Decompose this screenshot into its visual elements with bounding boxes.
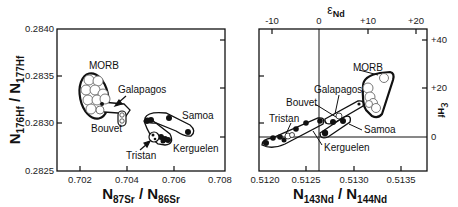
left-xtick-0: 0.702 [68, 174, 92, 185]
epsilon-nd-tick-0: -10 [265, 15, 279, 26]
left-y-axis-title: N176Hf / N177Hf [6, 55, 26, 144]
right-left-ticks [259, 76, 264, 123]
left-ytick-1: 0.2835 [25, 70, 54, 81]
left-label-morb: MORB [89, 60, 119, 71]
epsilon-hf-title: εHf [436, 103, 452, 119]
right-xtick-1: 0.5125 [291, 174, 320, 185]
left-panel: 0.2840 0.2835 0.2830 0.2825 0.702 0.704 … [6, 23, 232, 205]
epsilon-nd-tick-2: +10 [360, 15, 376, 26]
epsilon-nd-title: εNd [327, 3, 344, 19]
left-label-tristan: Tristan [126, 150, 156, 161]
left-ytick-3: 0.2825 [25, 165, 54, 176]
left-label-kerguelen: Kerguelen [173, 143, 219, 154]
right-label-bouvet: Bouvet [286, 97, 317, 108]
epsilon-nd-tick-3: +20 [408, 15, 424, 26]
right-panel: -10 0 +10 +20 εNd +40 +20 0 εHf 0.5120 0… [250, 3, 452, 205]
right-label-tristan: Tristan [269, 113, 299, 124]
right-side-ticks [422, 40, 427, 88]
left-x-axis-title: N87Sr / N86Sr [102, 185, 180, 205]
left-label-galapagos: Galapagos [118, 84, 166, 95]
figure: 0.2840 0.2835 0.2830 0.2825 0.702 0.704 … [0, 0, 458, 207]
left-x-ticks [80, 166, 174, 171]
epsilon-hf-tick-1: +20 [431, 82, 447, 93]
epsilon-hf-tick-2: 0 [431, 131, 436, 142]
left-ytick-2: 0.2830 [25, 117, 54, 128]
right-xtick-3: 0.5135 [386, 174, 415, 185]
left-xtick-1: 0.704 [115, 174, 139, 185]
right-morb-field [363, 72, 394, 117]
left-xtick-2: 0.706 [162, 174, 186, 185]
right-top-ticks [272, 29, 416, 34]
epsilon-hf-tick-0: +40 [431, 34, 447, 45]
right-label-morb: MORB [353, 62, 383, 73]
right-xtick-2: 0.5130 [339, 174, 368, 185]
epsilon-nd-tick-1: 0 [316, 15, 321, 26]
right-bottom-ticks [306, 166, 401, 171]
left-label-samoa: Samoa [182, 110, 214, 121]
right-xtick-0: 0.5120 [250, 174, 279, 185]
right-label-samoa: Samoa [364, 124, 396, 135]
right-x-axis-title: N143Nd / N144Nd [293, 185, 387, 205]
left-ytick-0: 0.2840 [25, 23, 54, 34]
right-label-kerguelen: Kerguelen [324, 142, 370, 153]
left-label-bouvet: Bouvet [91, 123, 122, 134]
left-xtick-3: 0.708 [208, 174, 232, 185]
right-label-galapagos: Galapagos [314, 84, 362, 95]
